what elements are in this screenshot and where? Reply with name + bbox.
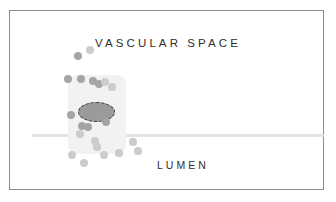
particle xyxy=(68,151,76,159)
particle xyxy=(76,130,83,137)
figure-canvas: VASCULAR SPACE LUMEN xyxy=(0,0,336,202)
particle xyxy=(129,138,136,145)
particle xyxy=(108,83,115,90)
particle xyxy=(115,149,122,156)
label-lumen: LUMEN xyxy=(157,159,209,171)
particle xyxy=(74,52,82,60)
particle xyxy=(84,123,92,131)
particle xyxy=(134,147,141,154)
particle xyxy=(100,151,108,159)
particle xyxy=(102,118,110,126)
label-vascular-space: VASCULAR SPACE xyxy=(10,37,323,49)
figure-frame-border: VASCULAR SPACE LUMEN xyxy=(9,10,324,190)
particle xyxy=(93,143,100,150)
particle xyxy=(80,159,88,167)
